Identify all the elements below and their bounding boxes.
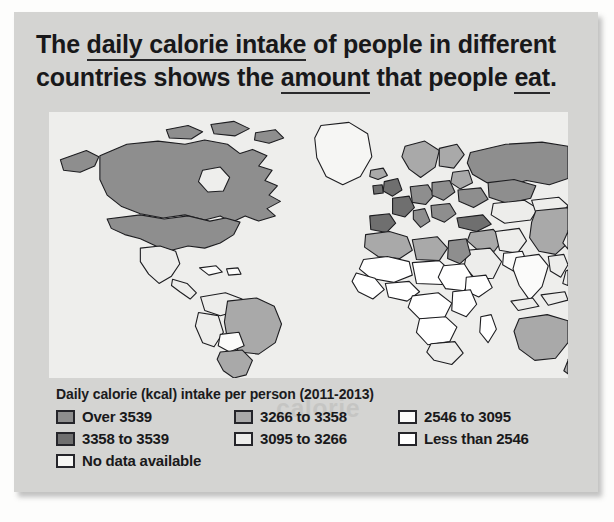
heading-underlined-phrase: amount — [281, 63, 370, 94]
legend-swatch — [234, 432, 253, 446]
legend-swatch — [56, 410, 75, 424]
legend-label: 3095 to 3266 — [260, 430, 347, 447]
heading-underlined-phrase: eat — [514, 63, 550, 94]
legend-item: 3266 to 3358 — [234, 408, 398, 425]
legend-item: 3095 to 3266 — [234, 430, 398, 447]
legend-label: 3358 to 3539 — [82, 430, 169, 447]
legend-title: Daily calorie (kcal) intake per person (… — [56, 386, 566, 402]
legend-items: Over 35393266 to 33582546 to 30953358 to… — [56, 408, 566, 469]
heading-text-run: that people — [370, 63, 515, 91]
heading-text-run: . — [550, 63, 557, 91]
legend-label: 2546 to 3095 — [424, 408, 511, 425]
legend-swatch — [56, 432, 75, 446]
map-legend: Daily calorie (kcal) intake per person (… — [56, 386, 566, 469]
legend-swatch — [398, 432, 417, 446]
legend-item: Less than 2546 — [398, 430, 566, 447]
legend-swatch — [398, 410, 417, 424]
legend-swatch — [56, 454, 75, 468]
heading-underlined-phrase: daily calorie intake — [87, 30, 307, 61]
heading-text-run: The — [36, 30, 87, 58]
legend-item: Over 3539 — [56, 408, 234, 425]
page-title: The daily calorie intake of people in di… — [36, 28, 588, 94]
legend-item: 2546 to 3095 — [398, 408, 566, 425]
worksheet-card: shows theof people in differentshows the… — [14, 12, 598, 492]
legend-swatch — [234, 410, 253, 424]
legend-label: Over 3539 — [82, 408, 152, 425]
legend-label: 3266 to 3358 — [260, 408, 347, 425]
world-choropleth-map — [49, 112, 568, 378]
page-root: shows theof people in differentshows the… — [0, 0, 614, 522]
legend-label: Less than 2546 — [424, 430, 529, 447]
world-map-panel — [49, 112, 568, 378]
legend-item: No data available — [56, 452, 234, 469]
legend-item: 3358 to 3539 — [56, 430, 234, 447]
legend-label: No data available — [82, 452, 201, 469]
